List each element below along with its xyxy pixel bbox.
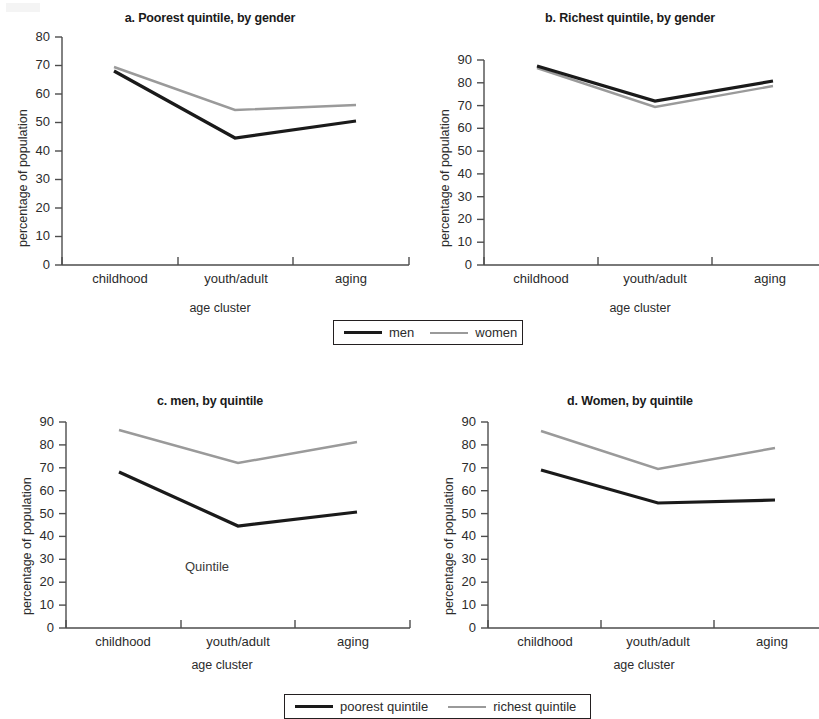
panel-d: d. Women, by quintile percentage of popu… [420,370,819,670]
panel-d-ytick-70: 70 [436,460,476,475]
panel-c: c. men, by quintile percentage of popula… [0,370,420,670]
panel-a-ytick-0: 0 [10,257,50,272]
panel-a-xtick-childhood: childhood [70,271,170,286]
panel-b-xtick-youth-adult: youth/adult [605,271,705,286]
panel-b-ytick-20: 20 [432,211,472,226]
panel-a-ytick-10: 10 [10,228,50,243]
panel-d-ytick-0: 0 [436,620,476,635]
panel-b-xlabel: age cluster [580,301,700,315]
panel-a-ytick-20: 20 [10,200,50,215]
panel-d-xtick-childhood: childhood [495,634,595,649]
panel-a-ytick-80: 80 [10,29,50,44]
panel-d-ytick-50: 50 [436,506,476,521]
panel-b-ytick-40: 40 [432,166,472,181]
panel-b-ytick-70: 70 [432,98,472,113]
legend-line-men [344,331,382,334]
legend-item-poorest-quintile[interactable]: poorest quintile [295,699,428,714]
panel-c-ytick-0: 0 [14,620,54,635]
panel-d-ytick-30: 30 [436,551,476,566]
panel-a-ytick-30: 30 [10,171,50,186]
panel-d-xtick-aging: aging [722,634,819,649]
panel-b: b. Richest quintile, by gender percentag… [420,0,819,310]
panel-c-xtick-aging: aging [303,634,403,649]
legend-label-women: women [475,325,517,340]
panel-b-ytick-50: 50 [432,143,472,158]
panel-b-series-men [537,66,773,101]
legend-line-richest-quintile [448,706,486,708]
panel-c-series-poorest [119,472,357,526]
panel-d-ytick-40: 40 [436,528,476,543]
panel-b-xtick-aging: aging [720,271,819,286]
panel-c-ytick-30: 30 [14,551,54,566]
panel-b-ytick-30: 30 [432,189,472,204]
panel-c-series-richest [119,430,357,463]
legend-item-richest-quintile[interactable]: richest quintile [448,699,576,714]
panel-a-plot [0,0,420,290]
panel-a-series-women [114,67,356,110]
panel-c-plot [0,370,420,650]
panel-d-series-poorest [541,470,775,503]
legend-quintile: poorest quintile richest quintile [284,694,591,719]
panel-c-ytick-10: 10 [14,597,54,612]
legend-label-men: men [389,325,414,340]
panel-c-ytick-70: 70 [14,460,54,475]
panel-d-ytick-60: 60 [436,483,476,498]
panel-d-plot [420,370,819,650]
legend-label-richest-quintile: richest quintile [493,699,576,714]
panel-d-ytick-20: 20 [436,574,476,589]
panel-c-ytick-40: 40 [14,528,54,543]
panel-c-xtick-youth-adult: youth/adult [188,634,288,649]
panel-b-ytick-90: 90 [432,52,472,67]
panel-d-xlabel: age cluster [584,658,704,672]
panel-b-plot [420,0,819,290]
panel-b-ytick-80: 80 [432,75,472,90]
panel-b-ytick-0: 0 [432,257,472,272]
panel-c-ytick-80: 80 [14,437,54,452]
panel-d-ytick-80: 80 [436,437,476,452]
panel-a-xlabel: age cluster [160,301,280,315]
panel-c-ytick-60: 60 [14,483,54,498]
panel-a-xtick-aging: aging [301,271,401,286]
panel-c-ytick-90: 90 [14,414,54,429]
panel-a: a. Poorest quintile, by gender percentag… [0,0,420,310]
panel-a-ytick-40: 40 [10,143,50,158]
legend-line-poorest-quintile [295,705,333,708]
legend-gender: men women [333,320,523,345]
panel-a-xtick-youth-adult: youth/adult [186,271,286,286]
panel-c-ytick-50: 50 [14,506,54,521]
legend-item-women[interactable]: women [430,325,517,340]
legend-item-men[interactable]: men [344,325,414,340]
panel-a-ytick-70: 70 [10,57,50,72]
panel-d-series-richest [541,431,775,469]
panel-d-ytick-90: 90 [436,414,476,429]
panel-d-ytick-10: 10 [436,597,476,612]
panel-b-ytick-10: 10 [432,234,472,249]
legend-label-poorest-quintile: poorest quintile [340,699,428,714]
panel-a-ytick-60: 60 [10,86,50,101]
panel-b-ytick-60: 60 [432,120,472,135]
panel-b-xtick-childhood: childhood [491,271,591,286]
panel-d-xtick-youth-adult: youth/adult [608,634,708,649]
panel-a-ytick-50: 50 [10,114,50,129]
panel-c-xtick-childhood: childhood [73,634,173,649]
panel-c-xlabel: age cluster [162,658,282,672]
legend-line-women [430,332,468,334]
panel-c-ytick-20: 20 [14,574,54,589]
